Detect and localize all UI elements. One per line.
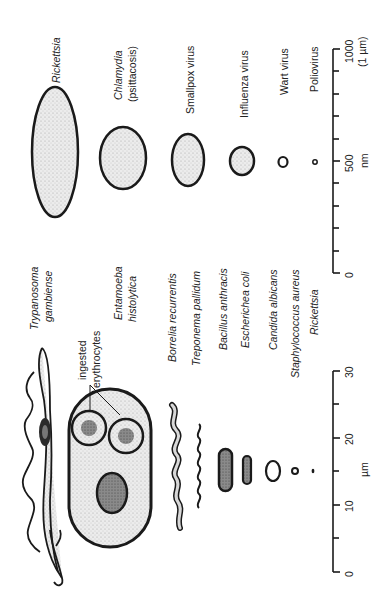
nm-panel: Rickettsia Chlamydia (psittacosis) Small…	[32, 36, 370, 278]
annotation-erythrocytes: erythrocytes	[90, 331, 102, 388]
um-scale-axis	[333, 371, 340, 572]
nm-tick-500: 500	[343, 154, 355, 172]
label-poliovirus: Poliovirus	[308, 46, 320, 92]
um-panel: Trypanosoma gambiense ingested erythrocy…	[23, 266, 370, 585]
nm-max-note: (1 µm)	[356, 36, 368, 67]
label-staphylococcus: Staphylococcus aureus	[289, 269, 301, 378]
um-tick-30: 30	[343, 366, 355, 378]
nm-scale-axis	[333, 49, 340, 273]
um-unit-label: µm	[358, 462, 370, 477]
trypanosoma-shape	[23, 348, 63, 585]
chlamydia-shape	[100, 127, 146, 189]
label-rickettsia-nm: Rickettsia	[50, 37, 62, 83]
label-gambiense: gambiense	[42, 270, 54, 322]
label-chlamydia: Chlamydia	[112, 50, 124, 100]
label-bacillus: Bacillus anthracis	[217, 268, 229, 350]
e-coli-shape	[243, 456, 251, 484]
label-wart-virus: Wart virus	[278, 48, 290, 95]
nm-tick-0: 0	[343, 272, 355, 278]
entamoeba-shape	[69, 385, 151, 547]
label-smallpox-virus: Smallpox virus	[184, 46, 196, 114]
um-tick-0: 0	[343, 571, 355, 577]
influenza-virus-shape	[230, 147, 254, 175]
label-candida: Candida albicans	[267, 269, 279, 350]
label-influenza-virus: Influenza virus	[238, 50, 250, 118]
um-tick-20: 20	[343, 433, 355, 445]
label-rickettsia-um: Rickettsia	[308, 289, 320, 335]
smallpox-virus-shape	[172, 134, 204, 186]
entamoeba-nucleus	[97, 473, 127, 513]
treponema-shape	[198, 424, 201, 508]
label-psittacosis: (psittacosis)	[126, 46, 138, 102]
rickettsia-small-shape	[312, 469, 315, 473]
rickettsia-shape	[32, 87, 78, 217]
label-trypanosoma: Trypanosoma	[28, 266, 40, 330]
nm-unit-label: nm	[358, 153, 370, 168]
microorganism-size-diagram: Rickettsia Chlamydia (psittacosis) Small…	[0, 0, 387, 599]
label-e-coli: Escherichea coli	[239, 271, 251, 348]
nm-tick-1000: 1000	[343, 39, 355, 63]
label-histolytica: histolytica	[126, 276, 138, 322]
candida-albicans-shape	[266, 461, 280, 481]
label-borrelia: Borrelia recurrentis	[166, 273, 178, 362]
wart-virus-shape	[279, 157, 288, 167]
um-tick-10: 10	[343, 500, 355, 512]
staphylococcus-shape	[292, 468, 298, 474]
label-treponema: Treponema pallidum	[190, 271, 202, 366]
bacillus-anthracis-shape	[219, 449, 232, 491]
label-entamoeba: Entamoeba	[112, 266, 124, 320]
poliovirus-shape	[313, 160, 317, 164]
annotation-ingested: ingested	[76, 340, 88, 380]
